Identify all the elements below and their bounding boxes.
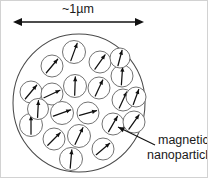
- nanoparticle: [111, 65, 133, 87]
- nanoparticle: [43, 128, 65, 150]
- nanoparticle: [41, 55, 63, 77]
- figure-canvas: ~1µm magneticnanoparticles: [0, 0, 208, 178]
- nanoparticle: [88, 77, 110, 99]
- nanoparticle: [77, 102, 99, 124]
- nanoparticle: [110, 48, 130, 68]
- nanoparticle: [63, 41, 86, 64]
- nanoparticle: [28, 99, 49, 120]
- scale-bar-arrowhead-right: [135, 18, 144, 26]
- callout-label-line2: nanoparticles: [147, 148, 208, 162]
- nanoparticle: [126, 87, 146, 107]
- callout-label-line1: magnetic: [158, 133, 208, 147]
- scale-bar: ~1µm: [13, 2, 144, 26]
- nanoparticle: [64, 75, 87, 98]
- nanoparticle: [60, 148, 83, 171]
- figure-labels: magneticnanoparticles: [147, 133, 208, 162]
- nanoparticle: [89, 51, 111, 73]
- nanoparticle: [102, 113, 124, 135]
- scale-bar-arrowhead-left: [13, 18, 22, 26]
- nanoparticle: [51, 102, 74, 125]
- nanoparticle: [68, 125, 91, 148]
- nanoparticle: [123, 111, 145, 133]
- nanoparticle-cluster-figure: ~1µm magneticnanoparticles: [0, 0, 208, 178]
- nanoparticle: [92, 138, 114, 160]
- scale-bar-label: ~1µm: [62, 2, 94, 16]
